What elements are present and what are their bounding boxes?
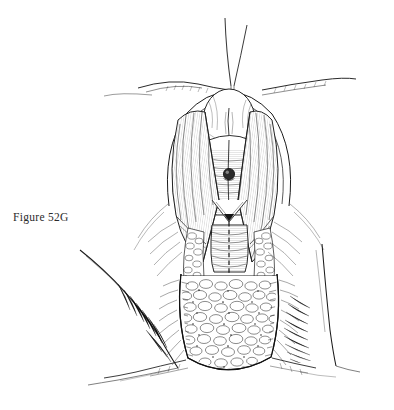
figure-plate: Figure 52G — [0, 0, 394, 410]
surgical-illustration — [0, 0, 394, 410]
figure-caption: Figure 52G — [13, 211, 69, 223]
granular-column-left — [184, 228, 205, 280]
granular-column-right — [254, 228, 275, 280]
